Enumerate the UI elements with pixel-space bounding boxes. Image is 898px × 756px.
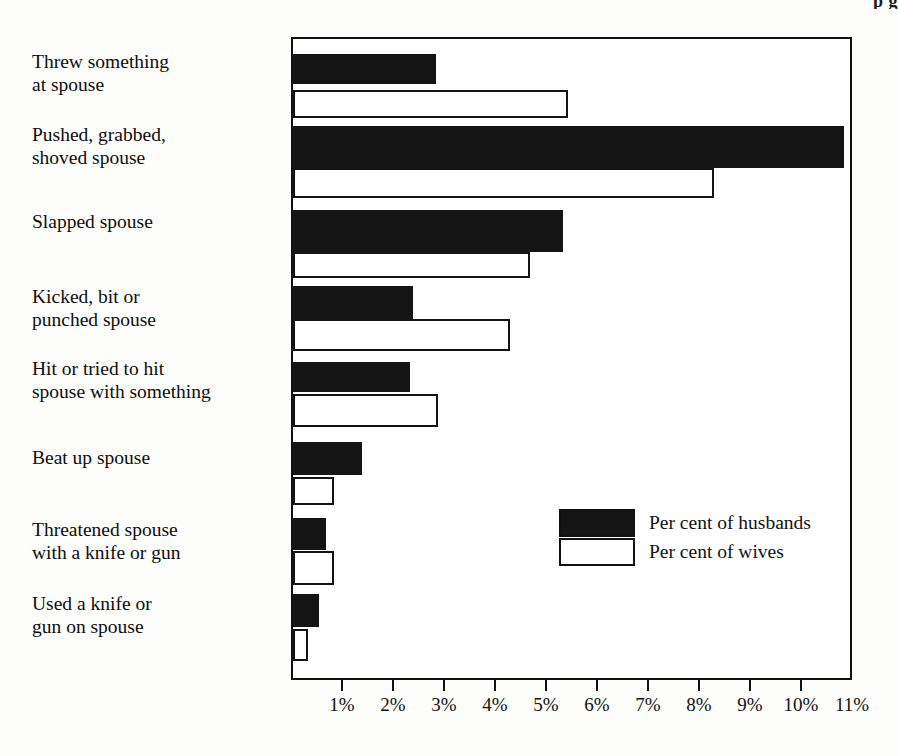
category-label: Pushed, grabbed, shoved spouse	[32, 123, 282, 169]
bar-husbands	[293, 518, 326, 550]
x-axis-tick	[392, 680, 394, 691]
x-axis-tick-label: 11%	[835, 694, 869, 716]
bar-wives	[293, 252, 530, 278]
x-axis-tick-label: 9%	[737, 694, 762, 716]
category-label: Beat up spouse	[32, 446, 282, 469]
bar-wives	[293, 477, 334, 505]
x-axis-tick	[545, 680, 547, 691]
x-axis-tick	[494, 680, 496, 691]
category-label: Threatened spouse with a knife or gun	[32, 518, 282, 564]
category-label: Slapped spouse	[32, 210, 282, 233]
bar-wives	[293, 168, 714, 198]
x-axis-tick-label: 6%	[584, 694, 609, 716]
bar-husbands	[293, 362, 410, 392]
bar-wives	[293, 319, 510, 351]
bar-chart-figure: Threw something at spousePushed, grabbed…	[0, 0, 898, 756]
legend-swatch-hollow	[559, 538, 635, 566]
x-axis-tick	[596, 680, 598, 691]
category-label: Used a knife or gun on spouse	[32, 592, 282, 638]
bar-husbands	[293, 286, 413, 319]
legend-item: Per cent of wives	[559, 537, 851, 566]
bar-wives	[293, 629, 308, 661]
bar-husbands	[293, 54, 436, 84]
bar-wives	[293, 394, 438, 427]
x-axis-tick	[749, 680, 751, 691]
legend-swatch-filled	[559, 509, 635, 537]
x-axis-tick-label: 2%	[380, 694, 405, 716]
legend-label: Per cent of husbands	[649, 512, 811, 534]
legend-item: Per cent of husbands	[559, 508, 851, 537]
category-label: Hit or tried to hit spouse with somethin…	[32, 357, 282, 403]
category-label: Kicked, bit or punched spouse	[32, 285, 282, 331]
bar-wives	[293, 551, 334, 585]
bar-husbands	[293, 594, 319, 627]
bar-wives	[293, 90, 568, 118]
x-axis-tick-label: 5%	[533, 694, 558, 716]
x-axis-tick-label: 1%	[329, 694, 354, 716]
x-axis-tick	[800, 680, 802, 691]
x-axis-tick	[443, 680, 445, 691]
category-label: Threw something at spouse	[32, 50, 282, 96]
x-axis-tick	[698, 680, 700, 691]
x-axis-tick-label: 3%	[431, 694, 456, 716]
x-axis-tick-label: 4%	[482, 694, 507, 716]
chart-legend: Per cent of husbandsPer cent of wives	[559, 508, 851, 566]
x-axis-tick	[341, 680, 343, 691]
legend-label: Per cent of wives	[649, 541, 784, 563]
bar-husbands	[293, 442, 362, 475]
bar-husbands	[293, 210, 563, 252]
bar-husbands	[293, 126, 844, 168]
plot-area	[291, 37, 852, 680]
x-axis-tick	[647, 680, 649, 691]
x-axis-tick-label: 8%	[686, 694, 711, 716]
x-axis-tick-label: 10%	[784, 694, 819, 716]
x-axis-tick-label: 7%	[635, 694, 660, 716]
